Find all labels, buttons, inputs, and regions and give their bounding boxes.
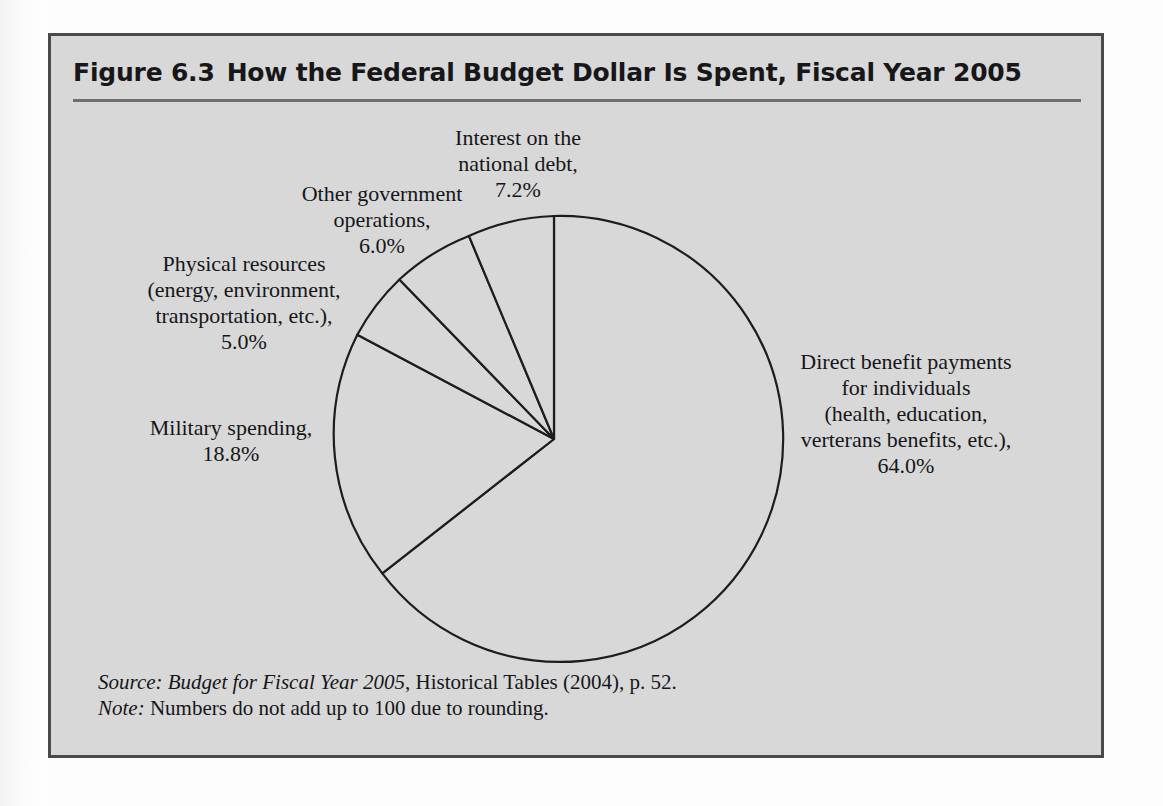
pie-label-physical-resources: Physical resources (energy, environment,… bbox=[103, 251, 385, 355]
page-background: Figure 6.3How the Federal Budget Dollar … bbox=[0, 0, 1163, 806]
figure-notes: Source: Budget for Fiscal Year 2005, His… bbox=[98, 669, 677, 721]
source-label: Source: bbox=[98, 670, 163, 694]
source-title: Budget for Fiscal Year 2005 bbox=[163, 670, 405, 694]
figure-panel: Figure 6.3How the Federal Budget Dollar … bbox=[48, 33, 1104, 758]
pie-label-military: Military spending, 18.8% bbox=[111, 415, 351, 467]
note-text: Numbers do not add up to 100 due to roun… bbox=[145, 696, 549, 720]
note-label: Note: bbox=[98, 696, 145, 720]
scan-gutter-shading bbox=[0, 0, 48, 806]
note-line: Note: Numbers do not add up to 100 due t… bbox=[98, 695, 677, 721]
source-rest: , Historical Tables (2004), p. 52. bbox=[405, 670, 677, 694]
pie-label-other-government: Other government operations, 6.0% bbox=[267, 181, 497, 259]
source-line: Source: Budget for Fiscal Year 2005, His… bbox=[98, 669, 677, 695]
pie-label-direct-benefits: Direct benefit payments for individuals … bbox=[751, 349, 1061, 479]
